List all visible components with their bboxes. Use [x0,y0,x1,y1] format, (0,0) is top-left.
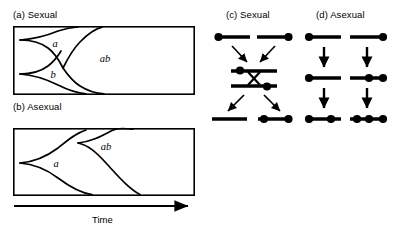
allele-marker [365,74,373,82]
allele-marker [379,115,387,123]
allele-marker [379,74,387,82]
allele-marker [305,115,313,123]
allele-marker [353,115,361,123]
panel-d-row3 [305,115,387,123]
panel-d-diagram [0,0,396,235]
panel-d-row1 [305,33,387,41]
allele-marker [379,33,387,41]
figure-root: (a) Sexual a b ab (b) Asexual a ab [0,0,396,235]
panel-d-row2 [305,74,387,82]
allele-marker [305,33,313,41]
allele-marker [365,115,373,123]
allele-marker [305,74,313,82]
allele-marker [327,115,335,123]
